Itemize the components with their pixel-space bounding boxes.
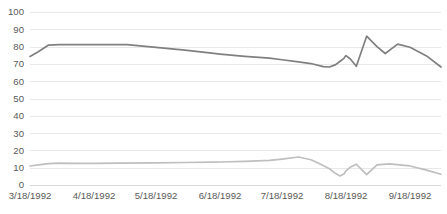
y-axis-tick-label: 50 bbox=[13, 93, 24, 104]
y-axis-tick-label: 0 bbox=[19, 179, 24, 190]
x-axis-tick-labels: 3/18/19924/18/19925/18/19926/18/19927/18… bbox=[9, 190, 432, 201]
data-series-lines bbox=[30, 36, 441, 176]
x-axis-tick-label: 7/18/1992 bbox=[261, 190, 304, 201]
x-axis-tick-label: 5/18/1992 bbox=[135, 190, 178, 201]
y-axis-tick-label: 10 bbox=[13, 162, 24, 173]
x-axis-tick-label: 4/18/1992 bbox=[73, 190, 116, 201]
y-axis-tick-label: 70 bbox=[13, 58, 24, 69]
y-axis-tick-label: 30 bbox=[13, 128, 24, 139]
y-axis-tick-label: 40 bbox=[13, 110, 24, 121]
y-axis-tick-label: 60 bbox=[13, 76, 24, 87]
x-axis-tick-label: 8/18/1992 bbox=[325, 190, 368, 201]
chart-container: 0102030405060708090100 3/18/19924/18/199… bbox=[0, 0, 447, 214]
y-axis-tick-label: 100 bbox=[8, 6, 24, 17]
y-axis-tick-labels: 0102030405060708090100 bbox=[8, 6, 24, 190]
y-axis-tick-label: 20 bbox=[13, 145, 24, 156]
y-axis-tick-label: 80 bbox=[13, 41, 24, 52]
x-axis-tick-label: 6/18/1992 bbox=[199, 190, 242, 201]
y-axis-tick-label: 90 bbox=[13, 24, 24, 35]
x-axis-tick-label: 3/18/1992 bbox=[9, 190, 52, 201]
gridlines bbox=[30, 13, 441, 186]
line-chart: 0102030405060708090100 3/18/19924/18/199… bbox=[0, 0, 447, 214]
series-line-lower bbox=[30, 157, 441, 176]
x-axis-tick-label: 9/18/1992 bbox=[389, 190, 432, 201]
series-line-upper bbox=[30, 36, 441, 67]
